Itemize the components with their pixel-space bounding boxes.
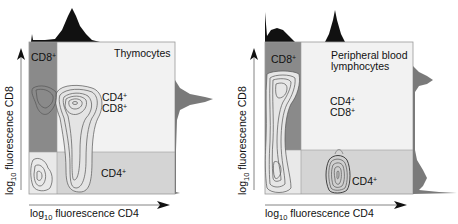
panel-title: Peripheral blood lymphocytes: [331, 50, 407, 72]
cd4-quadrant: [301, 150, 413, 194]
double-positive-label: CD4+ CD8+: [330, 96, 355, 118]
cd4-histogram-top: [265, 12, 295, 42]
cd8-histogram-side: [413, 66, 457, 194]
panel-peripheral-blood: Peripheral blood lymphocytes CD8+ CD4+ C…: [229, 0, 458, 224]
cd4-histogram-top: [31, 8, 100, 42]
cd4-quadrant-label: CD4+: [352, 176, 377, 187]
panel-title: Thymocytes: [114, 48, 171, 59]
cd8-quadrant-label: CD8+: [271, 54, 296, 65]
panel-thymocytes: Thymocytes CD8+ CD4+ CD8+ CD4+ log10 flu…: [0, 0, 229, 224]
x-axis-label: log10 fluorescence CD4: [30, 207, 139, 219]
cd4-quadrant-label: CD4+: [101, 168, 126, 179]
double-positive-label: CD4+ CD8+: [102, 92, 127, 114]
y-axis-label: log10 fluorescence CD8: [236, 86, 248, 195]
x-axis-label: log10 fluorescence CD4: [265, 207, 374, 219]
double-negative-quadrant: [29, 152, 57, 194]
cd8-histogram-side: [175, 80, 213, 194]
cd8-quadrant-label: CD8+: [31, 52, 56, 63]
y-axis-label: log10 fluorescence CD8: [3, 86, 15, 195]
